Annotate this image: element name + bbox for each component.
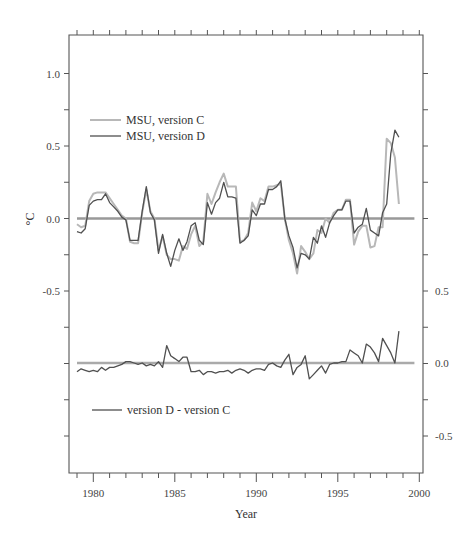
y-tick-label-left: 1.0 [46,68,60,80]
x-tick-label: 1985 [164,487,187,499]
y-tick-label-right: -0.5 [435,430,453,442]
series-lines [77,130,399,379]
axis-ticks [64,30,428,482]
legend-label-version-d: MSU, version D [126,129,205,143]
x-tick-label: 1990 [245,487,268,499]
y-tick-label-right: 0.0 [435,357,449,369]
legend-label-difference: version D - version C [127,403,230,417]
y-tick-label-right: 0.5 [435,285,449,297]
y-tick-label-left: 0.0 [46,213,60,225]
x-tick-label: 1980 [82,487,105,499]
y-tick-label-left: -0.5 [43,285,61,297]
tick-labels: 198019851990199520001.00.50.0-0.50.50.0-… [43,68,453,500]
plot-frame [69,35,423,473]
chart-svg: 198019851990199520001.00.50.0-0.50.50.0-… [0,0,473,548]
x-axis-title: Year [235,507,257,521]
x-tick-label: 1995 [327,487,350,499]
y-tick-label-left: 0.5 [46,140,60,152]
y-axis-title: °C [23,213,37,226]
plot-border [69,35,423,473]
legend-label-version-c: MSU, version C [126,113,204,127]
zero-lines [77,219,414,364]
series-line-difference [77,331,399,379]
x-tick-label: 2000 [408,487,431,499]
